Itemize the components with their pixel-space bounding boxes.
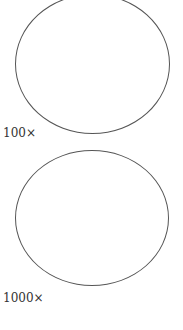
field-of-view-circle-1000x xyxy=(15,150,169,286)
magnification-label-100x: 100× xyxy=(3,127,36,139)
magnification-label-1000x: 1000× xyxy=(3,292,44,304)
field-of-view-circle-100x xyxy=(15,0,170,134)
